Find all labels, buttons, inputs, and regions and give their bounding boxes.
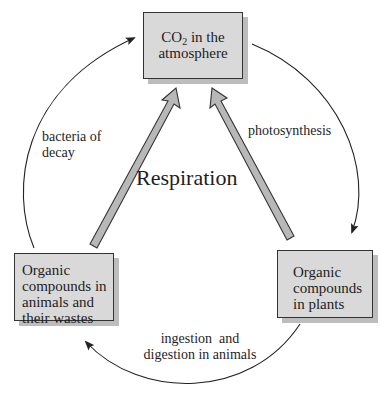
label-bacteria-of-decay: bacteria of decay [42, 129, 101, 161]
node-animals: Organic compounds in animals and their w… [14, 253, 114, 321]
node-plants-line: in plants [293, 296, 372, 312]
node-plants-line: compounds [293, 280, 372, 296]
respiration-title: Respiration [136, 166, 237, 190]
label-ingestion-digestion: ingestion and digestion in animals [100, 331, 300, 363]
node-animals-line: compounds in [22, 278, 113, 294]
carbon-cycle-diagram: CO2 in the atmosphere Organic compounds … [0, 0, 388, 396]
node-animals-line: Organic [22, 262, 113, 278]
node-atmosphere-line1: CO2 in the [144, 29, 242, 45]
respiration-arrow-from-plants [210, 88, 294, 240]
node-atmosphere: CO2 in the atmosphere [143, 12, 243, 79]
label-photosynthesis: photosynthesis [248, 123, 331, 139]
node-plants-line: Organic [293, 264, 372, 280]
node-plants: Organic compounds in plants [277, 250, 373, 318]
node-animals-line: their wastes [22, 310, 113, 326]
node-atmosphere-line2: atmosphere [144, 45, 242, 61]
node-animals-line: animals and [22, 294, 113, 310]
